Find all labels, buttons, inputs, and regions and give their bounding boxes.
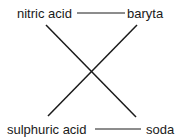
edge-baryta-sulphuric-acid [48, 25, 137, 116]
node-soda: soda [146, 123, 174, 136]
node-nitric-acid: nitric acid [17, 7, 72, 20]
node-baryta: baryta [127, 7, 163, 20]
node-sulphuric-acid: sulphuric acid [7, 123, 87, 136]
connector-lines [0, 0, 185, 140]
